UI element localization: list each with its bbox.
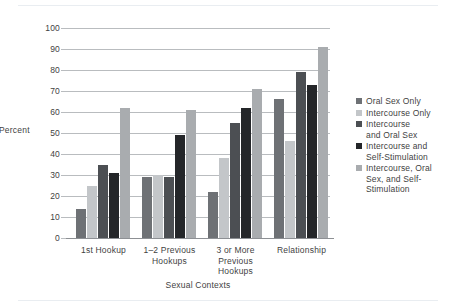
bar bbox=[208, 192, 218, 238]
legend-swatch-icon bbox=[356, 143, 362, 149]
legend-item-label-line: Intercourse, Oral bbox=[366, 163, 432, 174]
legend-item-label: Intercourse Only bbox=[366, 108, 431, 119]
bar bbox=[142, 177, 152, 238]
legend-swatch-icon bbox=[356, 110, 362, 116]
legend-item[interactable]: Intercourse, OralSex, and Self-Stimulati… bbox=[356, 163, 454, 195]
bar bbox=[175, 135, 185, 238]
legend-swatch-icon bbox=[356, 121, 362, 127]
legend-swatch-icon bbox=[356, 165, 362, 171]
y-axis-tick-label: 90 bbox=[34, 45, 60, 54]
bar bbox=[164, 177, 174, 238]
legend-item-label: Intercourse andSelf-Stimulation bbox=[366, 141, 428, 162]
y-axis-tick-labels: 0102030405060708090100 bbox=[30, 28, 60, 239]
x-axis-tick-label-line: Hookups bbox=[197, 266, 275, 277]
legend-item[interactable]: Intercourse Only bbox=[356, 108, 454, 119]
y-axis-tick-label: 20 bbox=[34, 192, 60, 201]
bar bbox=[318, 47, 328, 238]
bar bbox=[109, 173, 119, 238]
bar-group bbox=[208, 28, 263, 238]
bar-group bbox=[274, 28, 329, 238]
bar bbox=[219, 158, 229, 238]
y-axis-tick-label: 0 bbox=[34, 234, 60, 243]
x-axis-title: Sexual Contexts bbox=[66, 280, 330, 290]
y-axis-tick-label: 10 bbox=[34, 213, 60, 222]
bar bbox=[252, 89, 262, 238]
bar bbox=[274, 99, 284, 238]
legend-item[interactable]: Intercourseand Oral Sex bbox=[356, 119, 454, 140]
page-rule-top bbox=[18, 5, 438, 6]
legend-item-label-line: Sex, and Self- bbox=[366, 174, 432, 185]
legend-swatch-icon bbox=[356, 98, 362, 104]
bar bbox=[98, 165, 108, 239]
bar bbox=[120, 108, 130, 238]
bar-group bbox=[76, 28, 131, 238]
y-axis-tick-label: 50 bbox=[34, 129, 60, 138]
legend-item-label-line: Intercourse Only bbox=[366, 108, 431, 119]
x-axis-line bbox=[66, 238, 334, 239]
legend-item-label-line: Oral Sex Only bbox=[366, 96, 421, 107]
legend-item-label: Oral Sex Only bbox=[366, 96, 421, 107]
y-axis-tick-label: 100 bbox=[34, 24, 60, 33]
bar bbox=[230, 123, 240, 239]
bar bbox=[186, 110, 196, 238]
plot-area bbox=[66, 28, 330, 239]
legend-item-label-line: Self-Stimulation bbox=[366, 152, 428, 163]
x-axis-tick-label: Relationship bbox=[263, 245, 341, 256]
y-axis-tick-label: 60 bbox=[34, 108, 60, 117]
legend-item-label: Intercourse, OralSex, and Self-Stimulati… bbox=[366, 163, 432, 195]
x-axis-tick-label-line: Relationship bbox=[263, 245, 341, 256]
bar bbox=[307, 85, 317, 238]
y-axis-tick-label: 40 bbox=[34, 150, 60, 159]
y-axis-title: Percent bbox=[0, 126, 30, 135]
bar-groups bbox=[66, 28, 330, 238]
legend-item[interactable]: Oral Sex Only bbox=[356, 96, 454, 107]
bar bbox=[285, 141, 295, 238]
bar bbox=[87, 186, 97, 239]
legend-item-label-line: Stimulation bbox=[366, 184, 432, 195]
y-axis-tick-label: 80 bbox=[34, 66, 60, 75]
bar-chart-figure: Percent 0102030405060708090100 1st Hooku… bbox=[0, 0, 456, 306]
legend-item[interactable]: Intercourse andSelf-Stimulation bbox=[356, 141, 454, 162]
x-axis-tick-label-line: Previous bbox=[197, 256, 275, 267]
legend-item-label-line: Intercourse bbox=[366, 119, 417, 130]
y-axis-tick-label: 70 bbox=[34, 87, 60, 96]
bar-group bbox=[142, 28, 197, 238]
page-rule-bottom bbox=[18, 300, 438, 301]
legend-item-label-line: and Oral Sex bbox=[366, 130, 417, 141]
chart-legend: Oral Sex OnlyIntercourse OnlyIntercourse… bbox=[356, 96, 454, 196]
bar bbox=[241, 108, 251, 238]
bar bbox=[296, 72, 306, 238]
legend-item-label-line: Intercourse and bbox=[366, 141, 428, 152]
bar bbox=[153, 175, 163, 238]
legend-item-label: Intercourseand Oral Sex bbox=[366, 119, 417, 140]
y-axis-tick-label: 30 bbox=[34, 171, 60, 180]
bar bbox=[76, 209, 86, 238]
